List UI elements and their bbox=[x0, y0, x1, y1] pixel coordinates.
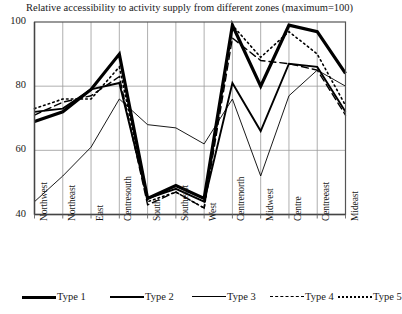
x-tick-label-south: South bbox=[152, 199, 162, 221]
x-tick-label-northwest: Northwest bbox=[39, 182, 49, 221]
legend-swatch-1 bbox=[22, 291, 56, 301]
x-tick-label-southeast: Southeast bbox=[180, 184, 190, 220]
legend-entry-4[interactable]: Type 4 bbox=[270, 288, 334, 304]
x-tick-label-midwest: Midwest bbox=[265, 188, 275, 221]
legend-entry-2[interactable]: Type 2 bbox=[110, 288, 174, 304]
x-tick-label-centresouth: Centresouth bbox=[123, 176, 133, 221]
x-tick-label-mideast: Mideast bbox=[350, 191, 360, 221]
x-tick-label-east: East bbox=[95, 205, 105, 221]
legend-entry-5[interactable]: Type 5 bbox=[338, 288, 402, 304]
x-tick-label-centre: Centre bbox=[293, 196, 303, 221]
legend-swatch-2 bbox=[110, 291, 144, 301]
legend-label-3: Type 3 bbox=[227, 291, 256, 302]
legend-label-5: Type 5 bbox=[373, 291, 402, 302]
series-line-3 bbox=[35, 70, 346, 202]
y-tick-label-80: 80 bbox=[2, 79, 26, 90]
series-line-4 bbox=[35, 38, 346, 208]
series-line-1 bbox=[35, 25, 346, 198]
axis-frame bbox=[35, 22, 346, 215]
y-tick-label-100: 100 bbox=[2, 15, 26, 26]
legend-swatch-3 bbox=[192, 291, 226, 301]
chart-legend: Type 1Type 2Type 3Type 4Type 5 bbox=[22, 288, 373, 308]
x-tick-label-west: West bbox=[208, 202, 218, 220]
x-tick-label-northeast: Northeast bbox=[67, 184, 77, 220]
series-line-2 bbox=[35, 64, 346, 202]
x-tick-label-centreeast: Centreeast bbox=[321, 181, 331, 220]
legend-label-4: Type 4 bbox=[305, 291, 334, 302]
series-line-5 bbox=[35, 25, 346, 208]
legend-swatch-4 bbox=[270, 291, 304, 301]
y-tick-label-40: 40 bbox=[2, 208, 26, 219]
x-tick-label-centrenorth: Centrenorth bbox=[236, 176, 246, 220]
gridlines bbox=[35, 22, 346, 215]
series-lines bbox=[35, 25, 346, 208]
y-tick-label-60: 60 bbox=[2, 143, 26, 154]
legend-label-1: Type 1 bbox=[57, 291, 86, 302]
legend-entry-3[interactable]: Type 3 bbox=[192, 288, 256, 304]
legend-label-2: Type 2 bbox=[145, 291, 174, 302]
legend-swatch-5 bbox=[338, 291, 372, 301]
legend-entry-1[interactable]: Type 1 bbox=[22, 288, 86, 304]
